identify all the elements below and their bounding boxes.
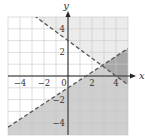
y-tick-label: 2 [60, 47, 65, 57]
y-tick-label: −4 [52, 118, 65, 128]
x-tick-label: 2 [89, 78, 94, 88]
y-tick-label: 4 [60, 24, 65, 34]
x-axis-label: x [139, 70, 145, 81]
x-tick-label: 0 [61, 78, 66, 88]
x-axis-arrow-icon [130, 74, 136, 79]
x-tick-label: 4 [113, 78, 118, 88]
y-axis-label: y [62, 0, 69, 11]
x-tick-label: −2 [38, 78, 51, 88]
x-tick-label: −4 [14, 78, 27, 88]
y-axis-arrow-icon [66, 11, 71, 17]
inequality-graph: −4−202442−2−4xy [0, 0, 145, 140]
y-tick-label: −2 [52, 95, 65, 105]
